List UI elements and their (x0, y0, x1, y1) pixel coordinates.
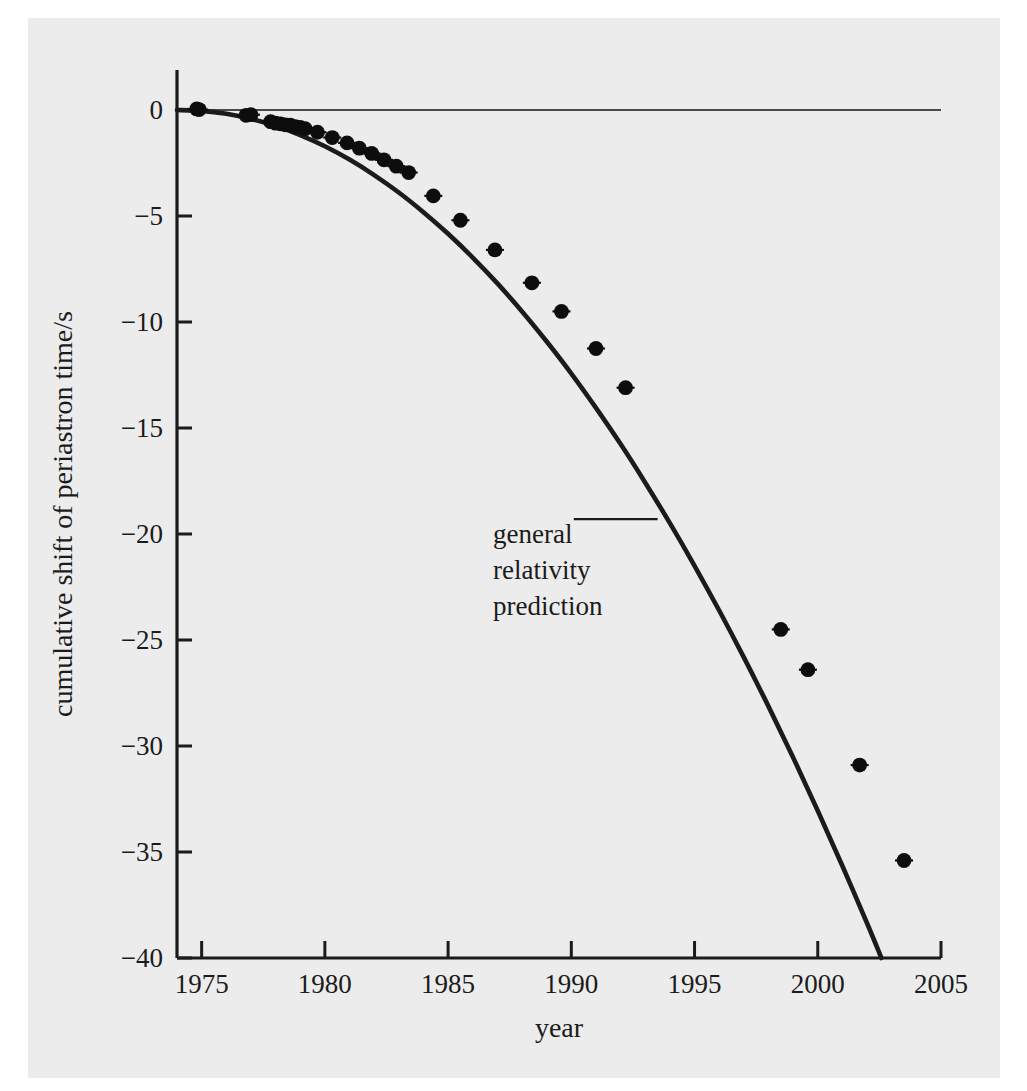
y-tick-label: −30 (121, 731, 163, 761)
data-point (524, 275, 539, 290)
x-tick-label: 1980 (298, 969, 352, 999)
data-point (801, 662, 816, 677)
data-point (618, 380, 633, 395)
data-point (554, 304, 569, 319)
y-axis-ticks (177, 110, 192, 958)
y-tick-label: −10 (121, 307, 163, 337)
data-point (192, 102, 207, 117)
y-axis-tick-labels: 0−5−10−15−20−25−30−35−40 (121, 95, 163, 973)
x-tick-label: 1995 (668, 969, 722, 999)
y-tick-label: −20 (121, 519, 163, 549)
y-axis-label: cumulative shift of periastron time/s (47, 311, 78, 717)
data-point (773, 622, 788, 637)
data-point (325, 130, 340, 145)
y-tick-label: −5 (134, 201, 163, 231)
data-point-group (188, 102, 913, 868)
x-tick-label: 2005 (914, 969, 968, 999)
data-point (589, 341, 604, 356)
annotation-line-prediction: prediction (493, 591, 603, 621)
x-tick-label: 1975 (175, 969, 229, 999)
y-tick-label: −15 (121, 413, 163, 443)
y-tick-label: −25 (121, 625, 163, 655)
orbital-decay-chart: 0−5−10−15−20−25−30−35−40 197519801985199… (0, 0, 1027, 1091)
annotation-line-relativity: relativity (493, 555, 591, 585)
data-point (852, 758, 867, 773)
y-tick-label: −35 (121, 837, 163, 867)
data-point (244, 107, 259, 122)
x-tick-label: 1990 (544, 969, 598, 999)
y-tick-label: 0 (150, 95, 164, 125)
x-axis-label: year (535, 1012, 584, 1043)
data-point (897, 853, 912, 868)
data-point (453, 213, 468, 228)
figure-container: 0−5−10−15−20−25−30−35−40 197519801985199… (0, 0, 1027, 1091)
y-tick-label: −40 (121, 943, 163, 973)
data-point (488, 243, 503, 258)
x-axis-ticks (202, 941, 941, 958)
x-axis-tick-labels: 1975198019851990199520002005 (175, 969, 968, 999)
data-point (401, 165, 416, 180)
data-point (310, 125, 325, 140)
annotation-line-general: general (493, 519, 572, 549)
data-point (426, 188, 441, 203)
x-tick-label: 1985 (421, 969, 475, 999)
x-tick-label: 2000 (791, 969, 845, 999)
